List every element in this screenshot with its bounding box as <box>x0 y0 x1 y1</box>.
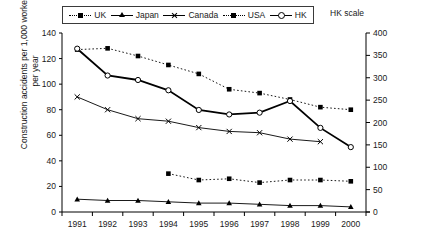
chart-axes: 0204060801001201400501001502002503003504… <box>42 28 388 229</box>
y-axis-tick-label: 100 <box>42 79 56 89</box>
chart-series-group <box>74 46 353 209</box>
chart-plot-area: 0204060801001201400501001502002503003504… <box>0 0 424 247</box>
data-point-marker <box>105 107 110 112</box>
y-axis-tick-label: 140 <box>42 28 56 38</box>
y2-axis-tick-label: 100 <box>373 162 387 172</box>
x-axis-tick-label: 1995 <box>189 219 208 229</box>
y-axis-tick-label: 60 <box>47 130 57 140</box>
y-axis-tick-label: 40 <box>47 156 57 166</box>
data-point-marker <box>166 88 171 93</box>
y-axis-tick-label: 0 <box>51 207 56 217</box>
chart-figure: UK Japan Canada USA HK HK scale <box>0 0 424 247</box>
x-axis-tick-label: 1998 <box>281 219 300 229</box>
data-point-marker <box>197 178 202 183</box>
series-uk <box>166 171 353 185</box>
data-point-marker <box>75 94 80 99</box>
series-line-hk <box>77 49 351 147</box>
data-point-marker <box>166 171 171 176</box>
y2-axis-tick-label: 250 <box>373 95 387 105</box>
series-line-japan <box>77 199 351 207</box>
data-point-marker <box>257 91 262 96</box>
y-axis-tick-label: 120 <box>42 54 56 64</box>
data-point-marker <box>75 46 80 51</box>
data-point-marker <box>105 46 110 51</box>
y2-axis-tick-label: 0 <box>373 207 378 217</box>
x-axis-tick-label: 1992 <box>98 219 117 229</box>
x-axis-tick-label: 2000 <box>341 219 360 229</box>
data-point-marker <box>349 179 354 184</box>
data-point-marker <box>197 72 202 77</box>
series-usa <box>75 46 353 112</box>
series-japan <box>74 196 353 209</box>
x-axis-tick-label: 1991 <box>68 219 87 229</box>
series-line-usa <box>77 48 351 109</box>
x-axis-tick-label: 1994 <box>159 219 178 229</box>
series-hk <box>75 46 354 150</box>
data-point-marker <box>349 107 354 112</box>
data-point-marker <box>135 77 140 82</box>
x-axis-tick-label: 1993 <box>129 219 148 229</box>
y2-axis-tick-label: 50 <box>373 185 383 195</box>
data-point-marker <box>105 73 110 78</box>
data-point-marker <box>227 87 232 92</box>
y-axis-tick-label: 20 <box>47 181 57 191</box>
data-point-marker <box>227 112 232 117</box>
data-point-marker <box>288 178 293 183</box>
y2-axis-tick-label: 350 <box>373 50 387 60</box>
y2-axis-tick-label: 200 <box>373 118 387 128</box>
data-point-marker <box>166 63 171 68</box>
y2-axis-tick-label: 300 <box>373 73 387 83</box>
x-axis-tick-label: 1997 <box>250 219 269 229</box>
data-point-marker <box>136 54 141 59</box>
data-point-marker <box>257 110 262 115</box>
data-point-marker <box>318 105 323 110</box>
data-point-marker <box>318 125 323 130</box>
data-point-marker <box>287 98 292 103</box>
data-point-marker <box>196 107 201 112</box>
x-axis-tick-label: 1996 <box>220 219 239 229</box>
y2-axis-tick-label: 150 <box>373 140 387 150</box>
data-point-marker <box>348 145 353 150</box>
data-point-marker <box>318 178 323 183</box>
data-point-marker <box>257 180 262 185</box>
data-point-marker <box>227 176 232 181</box>
y-axis-tick-label: 80 <box>47 105 57 115</box>
x-axis-tick-label: 1999 <box>311 219 330 229</box>
y2-axis-tick-label: 400 <box>373 28 387 38</box>
